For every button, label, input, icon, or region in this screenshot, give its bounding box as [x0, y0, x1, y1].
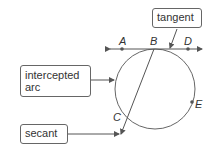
secant-label-box: secant — [20, 124, 68, 144]
point-e — [190, 100, 194, 104]
point-b-label: B — [150, 36, 157, 47]
intercepted-arc-label-line2: arc — [25, 81, 86, 93]
intercepted-arc-label-line1: intercepted — [25, 69, 86, 81]
intercepted-arc-label-box: intercepted arc — [20, 65, 91, 97]
point-d — [186, 47, 190, 51]
secant-label: secant — [25, 127, 57, 139]
point-c-label: C — [113, 112, 121, 123]
circle — [115, 49, 195, 129]
tangent-label-box: tangent — [152, 8, 202, 28]
tangent-callout-arrow — [170, 29, 177, 48]
point-a — [120, 47, 124, 51]
tangent-label: tangent — [157, 11, 194, 23]
point-e-label: E — [195, 99, 202, 110]
point-d-label: D — [184, 36, 192, 47]
point-a-label: A — [119, 36, 126, 47]
